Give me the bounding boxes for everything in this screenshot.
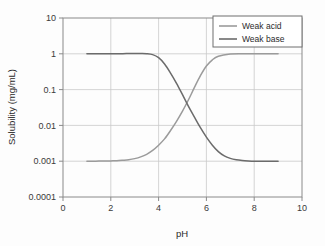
series-layer [87, 53, 278, 161]
y-tick-label: 0.0001 [28, 192, 56, 202]
legend-label-weak-acid: Weak acid [242, 21, 282, 31]
series-line-weak-acid [87, 54, 278, 162]
chart-figure: 02468101010.10.010.0010.0001 pH Solubili… [0, 0, 325, 246]
x-tick-label: 8 [252, 203, 257, 213]
x-axis-title: pH [176, 228, 188, 239]
y-tick-label: 10 [46, 13, 56, 23]
y-tick-label: 0.001 [33, 156, 56, 166]
series-line-weak-base [87, 53, 278, 161]
x-tick-label: 2 [108, 203, 113, 213]
solubility-vs-ph-chart: 02468101010.10.010.0010.0001 pH Solubili… [0, 0, 325, 246]
x-tick-label: 4 [156, 203, 161, 213]
y-tick-label: 0.01 [38, 121, 56, 131]
y-tick-label: 0.1 [43, 85, 56, 95]
legend: Weak acidWeak base [213, 16, 302, 47]
y-axis-title: Solubility (mg/mL) [6, 69, 17, 145]
y-tick-label: 1 [51, 49, 56, 59]
x-tick-label: 6 [204, 203, 209, 213]
x-tick-label: 0 [60, 203, 65, 213]
legend-label-weak-base: Weak base [242, 34, 285, 44]
x-tick-label: 10 [297, 203, 307, 213]
